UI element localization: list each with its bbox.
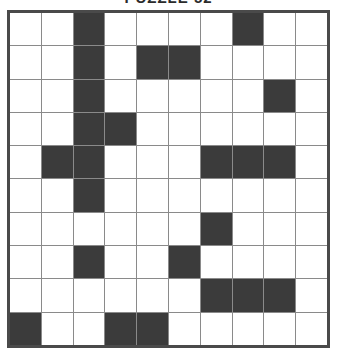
grid-cell-white[interactable] xyxy=(169,179,200,211)
grid-cell-white[interactable] xyxy=(10,146,41,178)
grid-cell-white[interactable] xyxy=(296,80,327,112)
grid-cell-white[interactable] xyxy=(296,13,327,45)
grid-cell-white[interactable] xyxy=(105,146,136,178)
grid-cell-black xyxy=(74,246,105,278)
grid-cell-white[interactable] xyxy=(137,13,168,45)
grid-cell-white[interactable] xyxy=(201,113,232,145)
grid-cell-black xyxy=(74,113,105,145)
grid-cell-white[interactable] xyxy=(233,113,264,145)
grid-cell-white[interactable] xyxy=(105,13,136,45)
grid-cell-white[interactable] xyxy=(74,279,105,311)
grid-cell-white[interactable] xyxy=(169,279,200,311)
grid-cell-white[interactable] xyxy=(264,113,295,145)
grid-cell-white[interactable] xyxy=(233,46,264,78)
grid-cell-white[interactable] xyxy=(105,80,136,112)
grid-cell-white[interactable] xyxy=(10,80,41,112)
grid-cell-black xyxy=(233,13,264,45)
grid-cell-white[interactable] xyxy=(296,146,327,178)
grid-cell-white[interactable] xyxy=(105,246,136,278)
grid-cell-white[interactable] xyxy=(10,213,41,245)
grid-cell-white[interactable] xyxy=(201,80,232,112)
grid-cell-white[interactable] xyxy=(10,179,41,211)
grid-cell-white[interactable] xyxy=(296,113,327,145)
grid-cell-white[interactable] xyxy=(10,113,41,145)
grid-cell-white[interactable] xyxy=(296,279,327,311)
grid-cell-black xyxy=(233,279,264,311)
grid-cell-white[interactable] xyxy=(42,213,73,245)
grid-cell-black xyxy=(137,46,168,78)
page-title: PUZZLE 52 xyxy=(0,0,337,6)
grid-cell-white[interactable] xyxy=(137,113,168,145)
grid-cell-black xyxy=(74,13,105,45)
grid-cell-black xyxy=(233,146,264,178)
grid-cell-white[interactable] xyxy=(201,313,232,345)
grid-cell-white[interactable] xyxy=(74,213,105,245)
grid-cell-white[interactable] xyxy=(137,179,168,211)
grid-cell-white[interactable] xyxy=(264,179,295,211)
grid-cell-white[interactable] xyxy=(137,146,168,178)
grid-cell-white[interactable] xyxy=(105,179,136,211)
grid-cell-black xyxy=(74,80,105,112)
grid-cell-white[interactable] xyxy=(137,80,168,112)
grid-cell-white[interactable] xyxy=(296,313,327,345)
grid-cell-black xyxy=(264,279,295,311)
grid-cell-white[interactable] xyxy=(233,213,264,245)
grid-cell-white[interactable] xyxy=(264,246,295,278)
grid-cell-black xyxy=(10,313,41,345)
grid-cell-white[interactable] xyxy=(169,146,200,178)
grid-cell-white[interactable] xyxy=(233,246,264,278)
grid-cell-white[interactable] xyxy=(296,246,327,278)
grid-cell-white[interactable] xyxy=(296,179,327,211)
grid-cell-black xyxy=(264,80,295,112)
grid-cell-white[interactable] xyxy=(233,80,264,112)
grid-cell-white[interactable] xyxy=(10,279,41,311)
grid-cell-white[interactable] xyxy=(137,279,168,311)
grid-cell-white[interactable] xyxy=(201,46,232,78)
grid-cell-black xyxy=(74,179,105,211)
grid-cell-black xyxy=(74,46,105,78)
grid-cell-white[interactable] xyxy=(10,13,41,45)
grid-cell-white[interactable] xyxy=(296,46,327,78)
grid-cell-white[interactable] xyxy=(42,279,73,311)
grid-cell-white[interactable] xyxy=(10,46,41,78)
grid-cell-white[interactable] xyxy=(264,313,295,345)
grid-cell-white[interactable] xyxy=(105,46,136,78)
grid-cell-white[interactable] xyxy=(42,179,73,211)
grid-cell-white[interactable] xyxy=(42,46,73,78)
grid-cell-white[interactable] xyxy=(10,246,41,278)
grid-cell-white[interactable] xyxy=(137,213,168,245)
grid-cell-white[interactable] xyxy=(296,213,327,245)
grid-cell-white[interactable] xyxy=(264,13,295,45)
grid-cell-white[interactable] xyxy=(201,13,232,45)
grid-cell-white[interactable] xyxy=(169,13,200,45)
grid-cell-black xyxy=(201,146,232,178)
grid-cell-white[interactable] xyxy=(105,213,136,245)
grid-cell-white[interactable] xyxy=(105,279,136,311)
grid-cell-white[interactable] xyxy=(74,313,105,345)
grid-cell-white[interactable] xyxy=(233,313,264,345)
grid-cell-white[interactable] xyxy=(169,113,200,145)
grid-cell-white[interactable] xyxy=(169,80,200,112)
crossword-grid[interactable] xyxy=(10,13,327,345)
grid-cell-white[interactable] xyxy=(42,246,73,278)
grid-cell-black xyxy=(201,279,232,311)
grid-cell-white[interactable] xyxy=(42,313,73,345)
crossword-grid-border xyxy=(7,10,330,348)
grid-cell-white[interactable] xyxy=(264,46,295,78)
grid-cell-black xyxy=(105,313,136,345)
grid-cell-white[interactable] xyxy=(42,13,73,45)
grid-cell-black xyxy=(201,213,232,245)
grid-cell-white[interactable] xyxy=(264,213,295,245)
grid-cell-white[interactable] xyxy=(169,313,200,345)
grid-cell-white[interactable] xyxy=(42,113,73,145)
grid-cell-black xyxy=(74,146,105,178)
grid-cell-white[interactable] xyxy=(137,246,168,278)
grid-cell-white[interactable] xyxy=(42,80,73,112)
grid-cell-white[interactable] xyxy=(201,179,232,211)
grid-cell-white[interactable] xyxy=(233,179,264,211)
grid-cell-white[interactable] xyxy=(201,246,232,278)
grid-cell-black xyxy=(105,113,136,145)
grid-cell-black xyxy=(264,146,295,178)
grid-cell-white[interactable] xyxy=(169,213,200,245)
grid-cell-black xyxy=(137,313,168,345)
